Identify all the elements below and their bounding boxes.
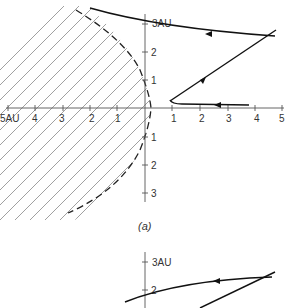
- x-tick-3-left: 3: [59, 113, 65, 124]
- x-tick-3-right: 3: [226, 113, 232, 124]
- incoming-line: [170, 30, 276, 101]
- x-tick-2-right: 2: [199, 113, 205, 124]
- lower-orbit: [170, 100, 249, 105]
- figure-b-arrow-icon: [213, 278, 220, 284]
- trajectories: [90, 8, 276, 105]
- x-tick-4-right: 4: [254, 113, 260, 124]
- caption-a: (a): [138, 220, 152, 232]
- y-tick-1-down: 1: [151, 132, 157, 143]
- x-tick-2-left: 2: [89, 113, 95, 124]
- arrow-lower-icon: [214, 102, 221, 108]
- figure-canvas: 5AU 4 3 2 1 1 2 3 4 5 3AU 2 1 1 2 3 (a) …: [0, 0, 285, 308]
- y-tick-1-up: 1: [151, 75, 157, 86]
- x-tick-4-left: 4: [32, 113, 38, 124]
- x-tick-5-right: 5: [279, 113, 285, 124]
- x-tick-5au-left: 5AU: [0, 113, 19, 124]
- arrow-incoming-icon: [200, 77, 206, 84]
- arrow-upper-icon: [205, 31, 212, 37]
- y-tick-2-down: 2: [151, 160, 157, 171]
- figure-b-y-axis: [142, 252, 148, 308]
- upper-orbit: [90, 8, 275, 36]
- x-tick-1-right: 1: [171, 113, 177, 124]
- y-tick-3-down: 3: [151, 188, 157, 199]
- figure-b-y-tick-3au: 3AU: [152, 257, 171, 268]
- figure-b-y-tick-2: 2: [151, 285, 157, 296]
- x-tick-1-left: 1: [115, 113, 121, 124]
- y-tick-2-up: 2: [151, 47, 157, 58]
